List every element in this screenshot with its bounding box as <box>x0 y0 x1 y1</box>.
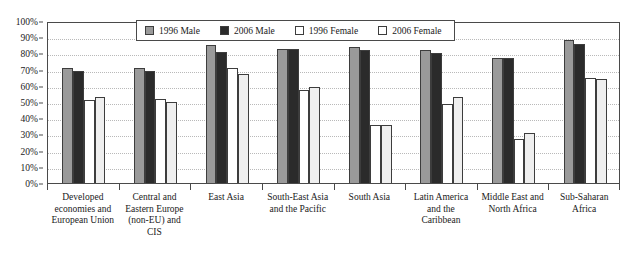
legend-label: 1996 Male <box>159 26 200 36</box>
category-separator <box>47 184 48 190</box>
bar <box>431 53 442 183</box>
bar <box>155 99 166 183</box>
bar-chart: 0%10%20%30%40%50%60%70%80%90%100% Develo… <box>0 0 627 262</box>
bar <box>574 44 585 183</box>
bar <box>288 49 299 183</box>
y-axis-tick-mark <box>39 70 43 71</box>
x-axis-category-label: South-East Asia and the Pacific <box>265 192 331 215</box>
legend-swatch-icon <box>145 26 154 35</box>
legend-item: 2006 Female <box>378 26 441 36</box>
x-axis-category-label: East Asia <box>193 192 259 204</box>
bar <box>309 87 320 183</box>
bar-group <box>191 23 263 183</box>
y-axis-tick-mark <box>39 135 43 136</box>
bar <box>585 78 596 183</box>
x-axis-category-label: Latin America and the Caribbean <box>408 192 474 227</box>
y-axis-tick-mark <box>39 103 43 104</box>
legend-item: 1996 Female <box>295 26 358 36</box>
bar <box>299 90 310 183</box>
legend-swatch-icon <box>378 26 387 35</box>
y-axis-tick-label: 30% <box>21 130 38 140</box>
bar <box>206 45 217 183</box>
legend-label: 2006 Female <box>392 26 441 36</box>
plot-area <box>47 22 620 184</box>
legend-label: 2006 Male <box>234 26 275 36</box>
bar <box>370 125 381 183</box>
bar-group <box>263 23 335 183</box>
bar <box>227 68 238 183</box>
bars-layer <box>48 23 619 183</box>
bar <box>62 68 73 183</box>
x-axis-category-label: Developed economies and European Union <box>50 192 116 227</box>
bar <box>166 102 177 183</box>
bar <box>238 74 249 183</box>
x-axis-category-label: Middle East and North Africa <box>480 192 546 215</box>
legend-item: 2006 Male <box>220 26 275 36</box>
bar-group <box>335 23 407 183</box>
bar <box>524 133 535 183</box>
y-axis-tick-mark <box>39 184 43 185</box>
bar <box>349 47 360 183</box>
bar <box>84 100 95 183</box>
bar <box>216 52 227 183</box>
x-axis-category-label: Sub-Saharan Africa <box>551 192 617 215</box>
y-axis-tick-label: 60% <box>21 82 38 92</box>
x-axis-category-label: South Asia <box>337 192 403 204</box>
bar-group <box>478 23 550 183</box>
category-separator <box>119 184 120 190</box>
y-axis-tick-mark <box>39 38 43 39</box>
bar-group <box>549 23 621 183</box>
y-axis-tick-mark <box>39 119 43 120</box>
x-axis: Developed economies and European UnionCe… <box>47 184 620 262</box>
chart-legend: 1996 Male2006 Male1996 Female2006 Female <box>136 20 455 41</box>
bar <box>492 58 503 183</box>
category-separator <box>334 184 335 190</box>
bar <box>73 71 84 183</box>
y-axis-tick-mark <box>39 167 43 168</box>
y-axis-tick-label: 0% <box>25 179 38 189</box>
bar <box>420 50 431 183</box>
category-separator <box>190 184 191 190</box>
y-axis-tick-label: 90% <box>21 33 38 43</box>
legend-label: 1996 Female <box>309 26 358 36</box>
bar <box>134 68 145 183</box>
bar <box>381 125 392 183</box>
y-axis-tick-label: 100% <box>16 17 38 27</box>
y-axis-tick-label: 40% <box>21 114 38 124</box>
bar <box>360 50 371 183</box>
y-axis: 0%10%20%30%40%50%60%70%80%90%100% <box>0 22 43 184</box>
bar <box>95 97 106 183</box>
legend-swatch-icon <box>295 26 304 35</box>
y-axis-tick-label: 50% <box>21 98 38 108</box>
legend-item: 1996 Male <box>145 26 200 36</box>
bar <box>564 40 575 183</box>
bar-group <box>120 23 192 183</box>
y-axis-tick-mark <box>39 54 43 55</box>
bar <box>514 139 525 183</box>
y-axis-tick-mark <box>39 86 43 87</box>
bar <box>453 97 464 183</box>
y-axis-tick-mark <box>39 151 43 152</box>
y-axis-tick-mark <box>39 22 43 23</box>
y-axis-tick-label: 20% <box>21 147 38 157</box>
legend-swatch-icon <box>220 26 229 35</box>
category-separator <box>548 184 549 190</box>
y-axis-tick-label: 10% <box>21 163 38 173</box>
bar-group <box>48 23 120 183</box>
y-axis-tick-label: 80% <box>21 49 38 59</box>
category-separator <box>619 184 620 190</box>
category-separator <box>262 184 263 190</box>
bar <box>277 49 288 183</box>
x-axis-category-label: Central and Eastern Europe (non-EU) and … <box>122 192 188 238</box>
bar-group <box>406 23 478 183</box>
y-axis-tick-label: 70% <box>21 66 38 76</box>
category-separator <box>405 184 406 190</box>
bar <box>503 58 514 183</box>
bar <box>145 71 156 183</box>
category-separator <box>477 184 478 190</box>
bar <box>442 104 453 183</box>
bar <box>596 79 607 183</box>
